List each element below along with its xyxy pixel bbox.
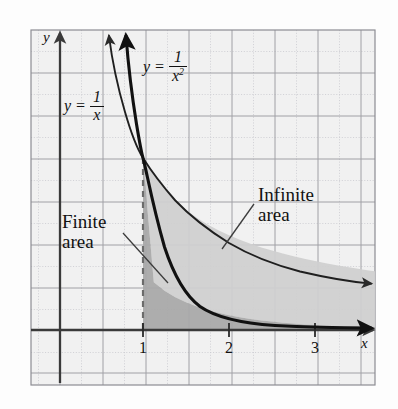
curve-label-reciprocal-fraction: 1 x [90,89,104,124]
finite-area-label-line2: area [62,232,106,252]
graph-canvas [0,0,398,409]
finite-area-label: Finite area [62,212,106,252]
curve-label-reciprocal-lhs: y = [64,97,86,114]
infinite-area-label-line2: area [258,205,314,225]
y-axis-label: y [43,30,50,45]
denominator-exponent: 2 [179,66,184,77]
curve-label-reciprocal-square: y = 1 x2 [143,50,187,86]
infinite-area-label-line1: Infinite [258,185,314,205]
fraction-numerator: 1 [90,89,104,106]
x-tick-label-2: 2 [225,340,233,356]
curve-label-reciprocal: y = 1 x [64,90,104,125]
denominator-base: x [172,67,179,84]
figure-container: y x 1 2 3 y = 1 x y = 1 x2 Finite area I… [0,0,398,409]
finite-area-label-line1: Finite [62,212,106,232]
curve-label-reciprocal-square-lhs: y = [143,58,165,75]
x-tick-label-1: 1 [139,340,147,356]
curve-label-reciprocal-square-fraction: 1 x2 [169,49,187,85]
fraction-denominator: x [90,106,104,124]
fraction-denominator: x2 [169,66,187,85]
fraction-numerator: 1 [169,49,187,66]
x-axis-label: x [361,336,368,351]
plot-background [31,30,375,385]
x-tick-label-3: 3 [311,340,319,356]
infinite-area-label: Infinite area [258,185,314,225]
